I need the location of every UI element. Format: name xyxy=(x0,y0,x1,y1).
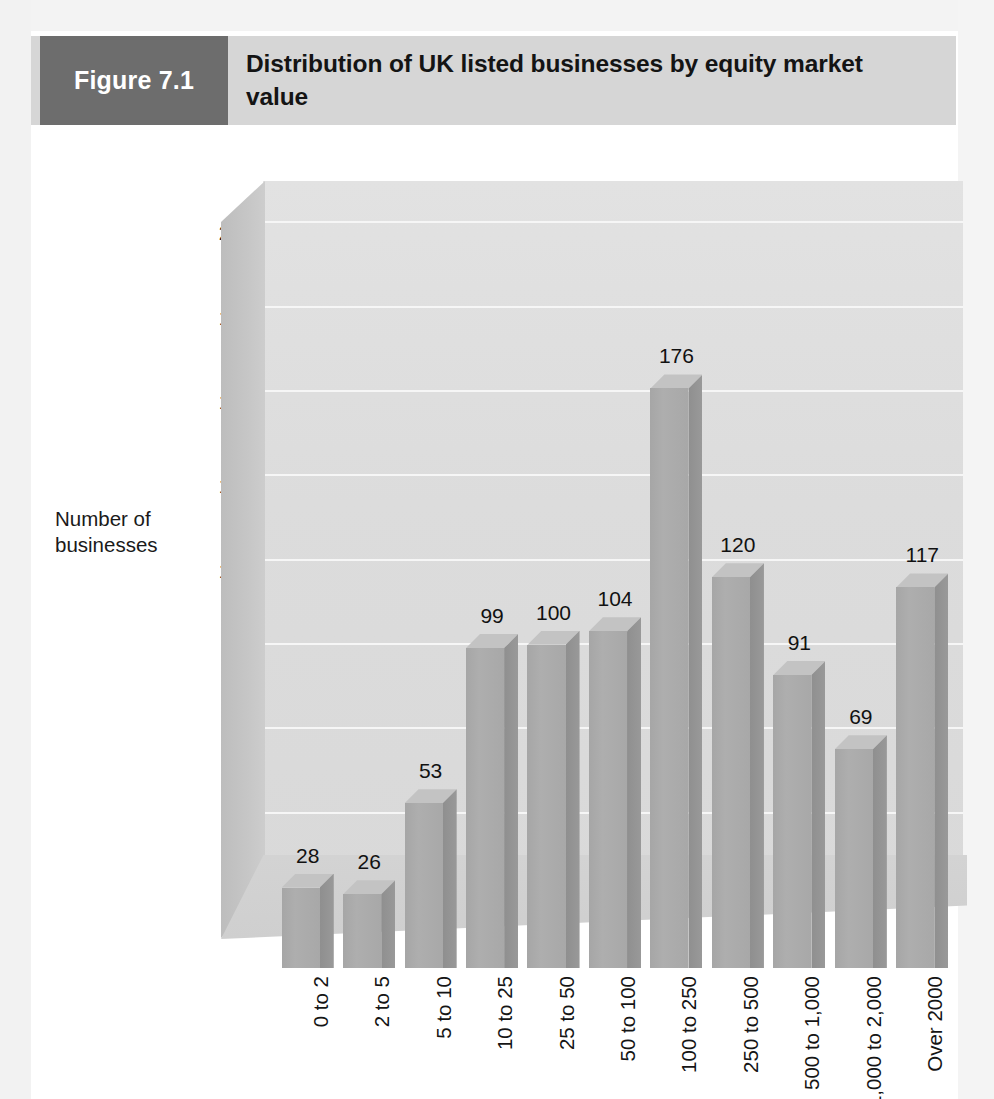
bar[interactable] xyxy=(527,631,579,968)
bar-front-face xyxy=(650,388,688,968)
bar-side-face xyxy=(381,880,395,968)
bar-side-face xyxy=(750,563,764,968)
figure-header-band: Figure 7.1 Distribution of UK listed bus… xyxy=(31,36,956,125)
bar[interactable] xyxy=(282,874,334,968)
figure-card: Figure 7.1 Distribution of UK listed bus… xyxy=(31,31,956,1099)
bar-front-face xyxy=(405,803,443,968)
x-axis-category-label: 50 to 100 xyxy=(616,976,640,1062)
x-axis-category-labels: 0 to 22 to 55 to 1010 to 2525 to 5050 to… xyxy=(221,970,967,1099)
bar[interactable] xyxy=(589,617,641,968)
bar-front-face xyxy=(589,631,627,968)
bar[interactable] xyxy=(405,789,457,968)
bar-side-face xyxy=(443,789,457,968)
bar-value-label: 120 xyxy=(700,533,776,557)
bar-side-face xyxy=(504,634,518,968)
bar-value-label: 26 xyxy=(331,850,407,874)
bar-side-face xyxy=(627,617,641,968)
bar-value-label: 176 xyxy=(638,344,714,368)
x-axis-category-label: 100 to 250 xyxy=(677,976,701,1073)
bar-side-face xyxy=(320,874,334,968)
bar[interactable] xyxy=(712,563,764,968)
bar-side-face xyxy=(566,631,580,968)
bar[interactable] xyxy=(773,661,825,968)
bar[interactable] xyxy=(835,735,887,968)
figure-number-label: Figure 7.1 xyxy=(74,66,194,95)
bar[interactable] xyxy=(466,634,518,968)
scan-margin-top xyxy=(31,0,958,31)
x-axis-category-label: 1,000 to 2,000 xyxy=(862,976,886,1099)
page-background: Figure 7.1 Distribution of UK listed bus… xyxy=(0,0,994,1099)
bars-layer: 282653991001041761209169117 xyxy=(221,165,967,965)
x-axis-category-label: Over 2000 xyxy=(923,976,947,1072)
bar-front-face xyxy=(527,645,565,968)
bar-side-face xyxy=(873,735,887,968)
x-axis-category-label: 500 to 1,000 xyxy=(800,976,824,1090)
y-axis-title: Number of businesses xyxy=(55,506,190,558)
bar[interactable] xyxy=(343,880,395,968)
y-axis-title-line-2: businesses xyxy=(55,532,190,558)
bar-value-label: 69 xyxy=(823,705,899,729)
x-axis-category-label: 0 to 2 xyxy=(309,976,333,1027)
x-axis-category-label: 2 to 5 xyxy=(370,976,394,1027)
bar[interactable] xyxy=(896,573,948,968)
bar[interactable] xyxy=(650,374,702,968)
bar-value-label: 104 xyxy=(577,587,653,611)
bar-value-label: 117 xyxy=(884,543,960,567)
x-axis-category-label: 250 to 500 xyxy=(739,976,763,1073)
figure-number-badge: Figure 7.1 xyxy=(40,36,228,125)
bar-side-face xyxy=(934,573,948,968)
bar-front-face xyxy=(835,749,873,968)
scan-margin-left xyxy=(0,0,31,1099)
bar-front-face xyxy=(896,587,934,968)
bar-front-face xyxy=(343,894,381,968)
chart-area: Number of businesses 2550751001251501752… xyxy=(31,125,956,1099)
y-axis-title-line-1: Number of xyxy=(55,506,190,532)
x-axis-category-label: 25 to 50 xyxy=(555,976,579,1050)
x-axis-category-label: 5 to 10 xyxy=(432,976,456,1039)
figure-title: Distribution of UK listed businesses by … xyxy=(246,47,906,113)
bar-front-face xyxy=(773,675,811,968)
bar-value-label: 53 xyxy=(393,759,469,783)
bar-front-face xyxy=(466,648,504,968)
bar-front-face xyxy=(282,888,320,968)
x-axis-category-label: 10 to 25 xyxy=(493,976,517,1050)
bar-value-label: 91 xyxy=(761,631,837,655)
plot-area-3d: 282653991001041761209169117 xyxy=(221,165,941,965)
bar-front-face xyxy=(712,577,750,968)
bar-side-face xyxy=(688,374,702,968)
